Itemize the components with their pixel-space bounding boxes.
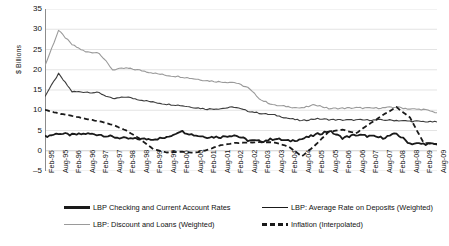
plot-svg [45,9,437,171]
legend-swatch-icon [64,204,90,212]
legend-swatch-icon [262,204,288,212]
x-axis-tick-labels: Feb-95Aug-95Feb-96Aug-96Feb-97Aug-97Feb-… [45,173,437,207]
x-axis-tick: Feb-00 [183,150,190,173]
x-axis-tick: Aug-02 [251,150,258,173]
x-axis-tick: Aug-04 [305,150,312,173]
x-axis-tick: Aug-07 [386,150,393,173]
x-axis-tick: Feb-97 [102,150,109,173]
line-chart: $ Billions 35302520151050–5 Feb-95Aug-95… [0,0,449,246]
legend-label: Inflation (Interpolated) [291,220,363,229]
y-axis-tick: 5 [38,127,42,135]
y-axis-tick: 35 [33,5,42,13]
y-axis-tick-labels: 35302520151050–5 [22,9,42,171]
series-line [45,30,437,112]
x-axis-tick: Feb-01 [210,150,217,173]
x-axis-tick: Aug-08 [413,150,420,173]
x-axis-tick: Feb-08 [399,150,406,173]
x-axis-tick: Feb-07 [372,150,379,173]
x-axis-tick: Feb-05 [318,150,325,173]
x-axis-tick: Feb-02 [237,150,244,173]
y-axis-tick: 0 [38,147,42,155]
legend-label: LBP Checking and Current Account Rates [93,203,231,212]
x-axis-tick: Aug-05 [332,150,339,173]
y-axis-tick: 25 [33,46,42,54]
x-axis-tick: Aug-96 [89,150,96,173]
legend-label: LBP: Average Rate on Deposits (Weighted) [291,203,433,212]
x-axis-tick: Feb-99 [156,150,163,173]
plot-area [45,9,437,171]
chart-legend: LBP Checking and Current Account RatesLB… [46,203,444,237]
legend-item[interactable]: LBP: Average Rate on Deposits (Weighted) [262,203,433,212]
y-axis-tick: –5 [33,167,42,175]
legend-item[interactable]: LBP: Discount and Loans (Weighted) [64,220,214,229]
series-line [45,107,437,156]
y-axis-tick: 10 [33,106,42,114]
legend-swatch-icon [64,221,90,229]
x-axis-tick: Aug-97 [116,150,123,173]
x-axis-tick: Aug-00 [197,150,204,173]
series-line [45,131,437,145]
x-axis-tick: Feb-04 [291,150,298,173]
x-axis-tick: Aug-98 [143,150,150,173]
y-axis-tick: 15 [33,86,42,94]
legend-label: LBP: Discount and Loans (Weighted) [93,220,214,229]
y-axis-tick: 20 [33,66,42,74]
legend-item[interactable]: Inflation (Interpolated) [262,220,363,229]
x-axis-tick: Feb-96 [75,150,82,173]
x-axis-tick: Aug-09 [440,150,447,173]
legend-item[interactable]: LBP Checking and Current Account Rates [64,203,231,212]
x-axis-tick: Feb-98 [129,150,136,173]
x-axis-tick: Feb-95 [48,150,55,173]
y-axis-title: $ Billions [15,25,22,95]
series-line [45,73,437,122]
y-axis-tick: 30 [33,25,42,33]
x-axis-tick: Feb-06 [345,150,352,173]
x-axis-tick: Aug-95 [62,150,69,173]
x-axis-tick: Aug-03 [278,150,285,173]
x-axis-tick: Aug-99 [170,150,177,173]
x-axis-tick: Aug-06 [359,150,366,173]
x-axis-tick: Aug-01 [224,150,231,173]
x-axis-tick: Feb-09 [426,150,433,173]
x-axis-tick: Feb-03 [264,150,271,173]
legend-swatch-icon [262,221,288,229]
